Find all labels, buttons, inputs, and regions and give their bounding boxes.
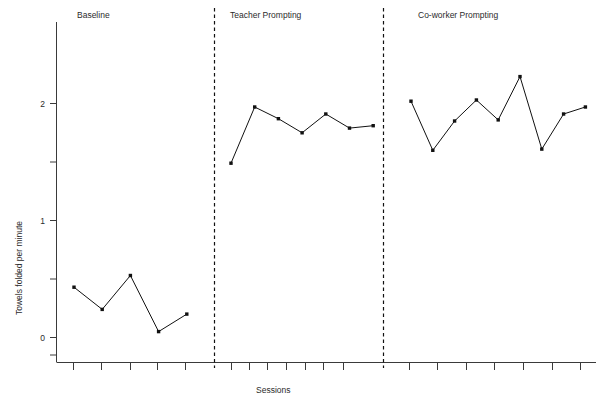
y-axis-title: Towels folded per minute <box>14 221 24 315</box>
data-point <box>72 286 75 289</box>
single-case-design-line-chart: 2 1 0 Towels folded per minute Sessions … <box>0 0 603 417</box>
data-point <box>157 330 160 333</box>
data-point <box>453 119 456 122</box>
y-tick-label-1: 1 <box>40 216 45 226</box>
data-point <box>229 162 232 165</box>
data-point <box>475 98 478 101</box>
data-point <box>540 147 543 150</box>
data-point <box>584 105 587 108</box>
data-point <box>129 274 132 277</box>
data-point <box>300 131 303 134</box>
data-point <box>101 308 104 311</box>
phase-label-baseline: Baseline <box>77 10 110 20</box>
data-point <box>518 75 521 78</box>
x-axis-title: Sessions <box>256 385 291 395</box>
chart-container: 2 1 0 Towels folded per minute Sessions … <box>0 0 603 417</box>
data-point <box>409 100 412 103</box>
y-tick-label-2: 2 <box>40 99 45 109</box>
data-point <box>324 112 327 115</box>
data-point <box>562 112 565 115</box>
chart-background <box>0 0 603 417</box>
data-point <box>372 124 375 127</box>
data-point <box>348 126 351 129</box>
phase-label-teacher: Teacher Prompting <box>230 10 302 20</box>
data-point <box>431 149 434 152</box>
y-tick-label-0: 0 <box>40 333 45 343</box>
phase-label-coworker: Co-worker Prompting <box>418 10 499 20</box>
data-point <box>185 312 188 315</box>
data-point <box>497 118 500 121</box>
data-point <box>277 117 280 120</box>
data-point <box>253 105 256 108</box>
